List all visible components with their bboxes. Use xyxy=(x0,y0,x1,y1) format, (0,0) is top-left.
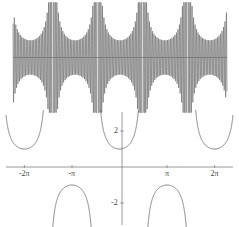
x-tick-label-minus-pi: -π xyxy=(68,170,75,178)
secant-panel: -2π -π π 2π 2 -2 xyxy=(0,110,239,227)
x-tick-label-pi: π xyxy=(165,170,169,178)
y-tick-label-2: 2 xyxy=(114,127,118,135)
oscillation-panel xyxy=(0,0,239,118)
secant-curve xyxy=(6,110,233,227)
x-tick-label-2pi: 2π xyxy=(211,170,219,178)
y-tick-label-minus-2: -2 xyxy=(111,199,118,207)
secant-svg xyxy=(0,110,239,227)
figure-root: -2π -π π 2π 2 -2 xyxy=(0,0,239,227)
x-tick-label-minus-2pi: -2π xyxy=(19,170,30,178)
oscillation-svg xyxy=(0,0,239,118)
